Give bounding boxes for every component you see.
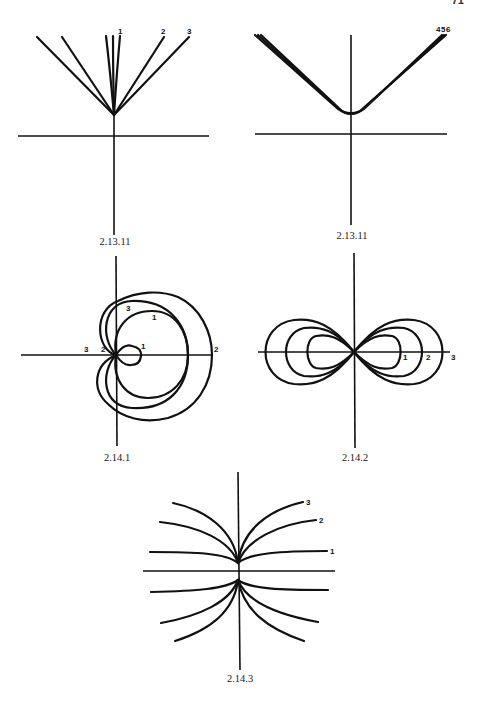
curve-label-6: 6 xyxy=(446,25,451,34)
figure-caption: 2.13.11 xyxy=(99,236,130,247)
curve-lower-left-2 xyxy=(161,580,238,623)
figure-caption: 2.14.3 xyxy=(227,673,253,684)
curve-line xyxy=(62,37,114,115)
curve-4 xyxy=(255,35,442,113)
figure-caption: 2.14.1 xyxy=(104,452,130,463)
curve-lower-right-1 xyxy=(238,580,328,590)
curve-label-3: 3 xyxy=(187,27,192,36)
curve-label-2: 2 xyxy=(319,516,324,525)
curve-6 xyxy=(261,35,446,114)
curve-line-1 xyxy=(114,36,120,115)
curve-label-1: 1 xyxy=(152,313,157,322)
curve-label-2-left: 2 xyxy=(101,345,106,354)
figure-2-14-1: 1 1 2 2 3 3 xyxy=(21,256,219,446)
y-axis xyxy=(238,472,240,670)
curve-upper-left-1 xyxy=(150,552,238,563)
curve-1-upper-right xyxy=(238,551,327,563)
figure-caption: 2.14.2 xyxy=(342,452,368,463)
curve-line-2 xyxy=(114,37,164,115)
figure-caption: 2.13.11 xyxy=(336,230,367,241)
figure-2-13-11-left: 1 2 3 xyxy=(18,27,209,235)
curve-lower-left-1 xyxy=(151,580,238,592)
curve-label-3-left: 3 xyxy=(84,345,89,354)
curve-label-2: 2 xyxy=(161,27,166,36)
curve-label-2-right: 2 xyxy=(214,345,219,354)
figure-2-14-2: 1 2 3 xyxy=(258,253,456,448)
figure-2-13-11-right: 4 5 6 xyxy=(255,25,451,225)
curve-label-2: 2 xyxy=(426,353,431,362)
curve-label-3: 3 xyxy=(306,498,311,507)
curve-label-1-inner: 1 xyxy=(141,342,146,351)
curve-label-3: 3 xyxy=(451,353,456,362)
curve-label-1: 1 xyxy=(403,353,408,362)
curve-line xyxy=(37,37,114,115)
figures-canvas: 1 2 3 4 5 6 1 1 2 2 3 3 xyxy=(0,0,480,708)
figure-2-14-3: 3 2 1 xyxy=(143,472,335,670)
curve-line-3 xyxy=(114,37,189,115)
curve-label-3-top: 3 xyxy=(126,304,131,313)
curve-label-1: 1 xyxy=(118,27,123,36)
curve-label-1: 1 xyxy=(330,547,335,556)
